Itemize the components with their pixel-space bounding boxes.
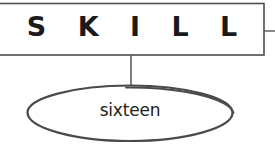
diagram-canvas: S K I L L sixteen — [0, 0, 275, 150]
diagram-svg — [0, 0, 275, 150]
node-ellipse[interactable] — [28, 86, 233, 142]
skill-header-box[interactable] — [0, 4, 264, 56]
